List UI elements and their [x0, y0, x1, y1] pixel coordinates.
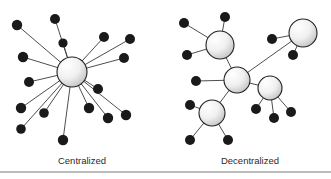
leaf-wnw[interactable]: [18, 52, 28, 62]
leaf-sse[interactable]: [84, 103, 94, 113]
leaf-se[interactable]: [103, 113, 113, 123]
leaf-bl-southwest[interactable]: [185, 135, 195, 145]
leaf-ne[interactable]: [125, 34, 135, 44]
leaf-nne[interactable]: [99, 32, 109, 42]
leaf-wsw[interactable]: [16, 103, 26, 113]
leaf-tl-north[interactable]: [220, 12, 230, 22]
leaf-bl-southeast[interactable]: [223, 135, 233, 145]
leaf-ese[interactable]: [121, 110, 131, 120]
leaf-tr-south[interactable]: [288, 50, 298, 60]
leaf-ssw[interactable]: [16, 124, 26, 134]
leaf-sw[interactable]: [39, 108, 49, 118]
leaf-ene[interactable]: [119, 53, 129, 63]
hub-top-left[interactable]: [206, 31, 234, 59]
caption-decentralized: Decentralized: [221, 155, 279, 166]
hub-nodes-group: [57, 57, 87, 87]
leaf-e[interactable]: [93, 84, 103, 94]
leaf-tl-southwest[interactable]: [182, 50, 192, 60]
leaf-bl-west[interactable]: [185, 100, 195, 110]
leaf-nnw[interactable]: [12, 20, 22, 30]
leaf-w[interactable]: [24, 77, 34, 87]
hub-center[interactable]: [224, 67, 250, 93]
caption-centralized: Centralized: [58, 155, 106, 166]
leaf-tl-west[interactable]: [179, 18, 189, 28]
leaf-r-south[interactable]: [269, 113, 279, 123]
leaf-center-west[interactable]: [191, 76, 201, 86]
hub-right[interactable]: [258, 76, 282, 100]
leaf-n[interactable]: [50, 14, 60, 24]
leaf-nw[interactable]: [58, 38, 67, 47]
network-topology-figure: Centralized Decentralized: [0, 0, 331, 179]
leaf-r-southeast[interactable]: [286, 107, 296, 117]
hub-top-right[interactable]: [289, 19, 317, 47]
topology-diagram-svg: Centralized Decentralized: [0, 0, 331, 179]
leaf-r-southwest[interactable]: [251, 104, 261, 114]
leaf-s[interactable]: [58, 135, 68, 145]
leaf-tr-west[interactable]: [267, 34, 277, 44]
central-hub[interactable]: [57, 57, 87, 87]
hub-bottom-left[interactable]: [199, 100, 225, 126]
